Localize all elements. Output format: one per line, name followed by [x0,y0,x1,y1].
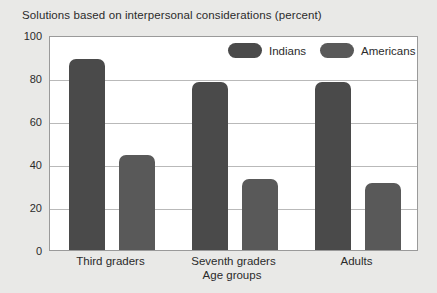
legend-entry-americans: Americans [320,43,415,58]
y-axis-tick-label: 0 [2,245,42,257]
legend-swatch-icon [228,43,262,58]
gridline [50,80,417,81]
x-axis-tick-label: Adults [341,255,373,267]
legend-label: Indians [269,45,306,57]
x-axis-tick-label: Third graders [76,255,144,267]
bar-indians-seventh-graders [192,82,228,250]
x-axis-tick-label: Seventh graders [191,255,275,267]
y-axis-tick-label: 40 [2,159,42,171]
chart-title: Solutions based on interpersonal conside… [22,9,322,21]
legend-swatch-icon [320,43,354,58]
gridline [50,123,417,124]
chart-legend: IndiansAmericans [228,43,415,58]
bar-indians-third-graders [69,59,105,250]
y-axis-tick-label: 60 [2,116,42,128]
y-axis-tick-label: 80 [2,73,42,85]
bar-americans-third-graders [119,155,155,250]
y-axis-tick-label: 20 [2,202,42,214]
plot-area [49,36,418,251]
bar-indians-adults [315,82,351,250]
bar-americans-seventh-graders [242,179,278,250]
gridline [50,209,417,210]
bar-chart-figure: Solutions based on interpersonal conside… [0,0,437,293]
bar-americans-adults [365,183,401,250]
gridline [50,166,417,167]
legend-label: Americans [361,45,415,57]
legend-entry-indians: Indians [228,43,306,58]
y-axis-tick-label: 100 [2,30,42,42]
x-axis-title: Age groups [203,269,262,281]
